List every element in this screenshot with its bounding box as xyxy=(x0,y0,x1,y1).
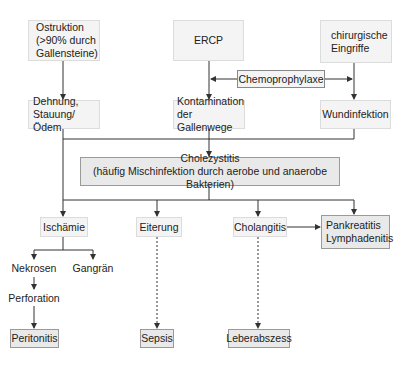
node-peritonitis-label: Peritonitis xyxy=(11,332,57,345)
node-kontamination-line2: der Gallenwege xyxy=(177,108,244,134)
node-leberabszess-label: Leberabszess xyxy=(226,332,291,345)
node-nekrosen: Nekrosen xyxy=(10,260,58,277)
node-chemoprophylaxe-label: Chemoprophylaxe xyxy=(238,73,323,86)
node-cholezystitis-subtitle: (häufig Mischinfektion durch aerobe und … xyxy=(81,165,339,191)
node-peritonitis: Peritonitis xyxy=(10,329,59,348)
node-dehnung: Dehnung, Stauung/Ödem xyxy=(28,100,100,129)
node-kontamination-line1: Kontamination xyxy=(177,95,244,108)
node-obstruktion-line2: (>90% durch xyxy=(36,34,96,47)
node-perforation: Perforation xyxy=(6,290,62,306)
node-eiterung: Eiterung xyxy=(136,217,182,237)
node-perforation-label: Perforation xyxy=(8,292,59,305)
node-wundinfektion-label: Wundinfektion xyxy=(322,108,388,121)
node-obstruktion: Ostruktion (>90% durch Gallensteine) xyxy=(28,20,100,61)
node-gangraen-label: Gangrän xyxy=(73,262,114,275)
node-sepsis: Sepsis xyxy=(140,329,174,348)
node-ercp: ERCP xyxy=(173,20,244,61)
node-chirurgische-line1: chirurgische xyxy=(331,29,388,42)
node-cholezystitis: Cholezystitis (häufig Mischinfektion dur… xyxy=(80,157,340,186)
node-cholezystitis-title: Cholezystitis xyxy=(181,152,240,165)
node-chirurgische-line2: Eingriffe xyxy=(331,42,369,55)
node-obstruktion-line1: Ostruktion xyxy=(36,21,84,34)
node-ischaemie-label: Ischämie xyxy=(43,221,85,234)
node-pankreatitis-line1: Pankreatitis xyxy=(326,219,381,232)
node-dehnung-line1: Dehnung, xyxy=(33,95,79,108)
node-cholangitis-label: Cholangitis xyxy=(234,221,286,234)
node-kontamination: Kontamination der Gallenwege xyxy=(173,100,245,129)
node-ischaemie: Ischämie xyxy=(40,217,88,237)
node-sepsis-label: Sepsis xyxy=(141,332,173,345)
node-pankreatitis: Pankreatitis Lymphadenitis xyxy=(321,215,390,249)
node-chemoprophylaxe: Chemoprophylaxe xyxy=(237,70,325,88)
node-wundinfektion: Wundinfektion xyxy=(320,100,391,129)
node-obstruktion-line3: Gallensteine) xyxy=(36,47,98,60)
node-cholangitis: Cholangitis xyxy=(233,217,287,237)
node-eiterung-label: Eiterung xyxy=(139,221,178,234)
node-nekrosen-label: Nekrosen xyxy=(12,262,57,275)
node-dehnung-line2: Stauung/Ödem xyxy=(33,108,99,134)
node-gangraen: Gangrän xyxy=(70,260,116,277)
node-leberabszess: Leberabszess xyxy=(228,329,290,348)
node-pankreatitis-line2: Lymphadenitis xyxy=(326,232,393,245)
node-ercp-label: ERCP xyxy=(194,34,223,47)
node-chirurgische-eingriffe: chirurgische Eingriffe xyxy=(320,20,392,63)
